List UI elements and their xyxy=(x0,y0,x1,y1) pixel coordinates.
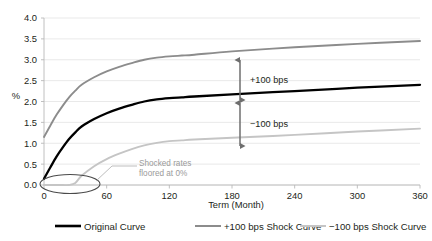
y-tick-label: 3.5 xyxy=(24,33,37,44)
y-axis-title: % xyxy=(12,90,20,101)
y-tick-label: 4.0 xyxy=(24,12,37,23)
shocked-rates-note-line2: floored at 0% xyxy=(139,169,187,178)
y-tick-label: 3.0 xyxy=(24,54,37,65)
y-tick-label: 2.0 xyxy=(24,96,37,107)
x-tick-label: 300 xyxy=(350,190,366,201)
y-tick-label: 1.5 xyxy=(24,117,37,128)
y-tick-labels: 0.00.51.01.52.02.53.03.54.0 xyxy=(24,12,37,190)
legend-label: Original Curve xyxy=(84,221,145,232)
x-axis xyxy=(44,185,420,189)
data-series-group xyxy=(44,41,420,185)
y-axis xyxy=(41,18,44,185)
legend-label: −100 bps Shock Curve xyxy=(329,221,426,232)
chart-canvas: 0.00.51.01.52.02.53.03.54.0 060120180240… xyxy=(0,0,432,241)
chart-legend: Original Curve+100 bps Shock Curve−100 b… xyxy=(55,221,426,232)
x-tick-label: 240 xyxy=(287,190,303,201)
y-tick-label: 0.5 xyxy=(24,159,37,170)
plus-100-bps-label: +100 bps xyxy=(250,75,288,85)
x-axis-title: Term (Month) xyxy=(208,199,264,210)
annotation-leader-line xyxy=(96,166,137,181)
yield-curve-chart: 0.00.51.01.52.02.53.03.54.0 060120180240… xyxy=(0,0,432,241)
y-tick-label: 2.5 xyxy=(24,75,37,86)
shocked-rates-note-line1: Shocked rates xyxy=(139,159,191,168)
x-tick-label: 0 xyxy=(41,190,46,201)
y-tick-label: 1.0 xyxy=(24,138,37,149)
x-tick-label: 120 xyxy=(162,190,178,201)
y-tick-label: 0.0 xyxy=(24,179,37,190)
minus-100-bps-label: −100 bps xyxy=(250,119,288,129)
x-tick-label: 60 xyxy=(101,190,111,201)
x-tick-label: 360 xyxy=(412,190,428,201)
